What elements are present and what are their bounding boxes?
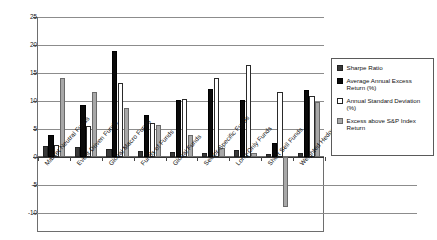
- x-axis-tick: [70, 157, 71, 161]
- bar: [240, 100, 245, 157]
- y-axis-tick-label: 5: [3, 126, 37, 132]
- bar: [86, 126, 91, 157]
- bar: [138, 151, 143, 157]
- legend-swatch-annual-standard-deviation: [337, 98, 343, 104]
- x-axis-tick: [229, 157, 230, 161]
- bar-group: [166, 17, 198, 157]
- bar: [277, 92, 282, 157]
- bar: [182, 99, 187, 157]
- bar: [144, 115, 149, 157]
- bar: [283, 157, 288, 207]
- legend-label: Annual Standard Deviation (%): [347, 97, 430, 112]
- bar: [202, 153, 207, 157]
- chart-legend: Sharpe Ratio Average Annual Excess Retur…: [331, 58, 434, 156]
- y-axis-tick: [33, 185, 37, 186]
- x-axis-tick: [261, 157, 262, 161]
- legend-item: Excess above S&P Index Return: [337, 117, 429, 132]
- bar: [208, 89, 213, 157]
- bar: [266, 154, 271, 157]
- y-axis-tick-label: 20: [3, 42, 37, 48]
- legend-label: Sharpe Ratio: [347, 64, 430, 71]
- bar: [150, 123, 155, 157]
- bar: [251, 153, 256, 157]
- x-axis-line: [37, 157, 324, 158]
- bar: [246, 65, 251, 157]
- bar: [304, 90, 309, 157]
- bar: [48, 135, 53, 157]
- bar-group: [134, 17, 166, 157]
- x-axis-tick: [293, 157, 294, 161]
- bar: [106, 149, 111, 157]
- bar-group: [261, 17, 293, 157]
- bar: [309, 96, 314, 157]
- x-axis-tick: [38, 157, 39, 161]
- y-axis-tick-label: -5: [3, 182, 37, 188]
- legend-swatch-excess-above-sp-index-return: [337, 118, 343, 124]
- bar: [176, 100, 181, 157]
- bar: [43, 146, 48, 157]
- bar: [124, 108, 129, 157]
- bar-group: [102, 17, 134, 157]
- bar: [219, 148, 224, 157]
- bar-group: [293, 17, 325, 157]
- bar: [112, 51, 117, 157]
- bar: [80, 105, 85, 157]
- x-axis-tick: [166, 157, 167, 161]
- x-axis-tick: [197, 157, 198, 161]
- bar: [156, 125, 161, 157]
- y-axis-tick-label: 15: [3, 70, 37, 76]
- bar: [214, 78, 219, 157]
- bar: [60, 78, 65, 157]
- bar-group: [229, 17, 261, 157]
- legend-item: Average Annual Excess Return (%): [337, 77, 429, 92]
- x-axis-tick: [102, 157, 103, 161]
- gridline: [37, 213, 417, 214]
- x-axis-tick: [134, 157, 135, 161]
- legend-item: Annual Standard Deviation (%): [337, 97, 429, 112]
- bar-group: [38, 17, 70, 157]
- bar-chart: 2520151050-5-10 Market Neutral FundsEven…: [0, 0, 437, 240]
- legend-label: Excess above S&P Index Return: [347, 117, 430, 132]
- y-axis-tick: [33, 213, 37, 214]
- bar-group: [70, 17, 102, 157]
- bar-group: [197, 17, 229, 157]
- bar: [234, 150, 239, 157]
- bar: [315, 102, 320, 157]
- bar: [188, 135, 193, 157]
- bar: [298, 153, 303, 157]
- bar: [170, 152, 175, 157]
- legend-swatch-sharpe-ratio: [337, 65, 343, 71]
- y-axis-tick-label: 0: [3, 154, 37, 160]
- legend-label: Average Annual Excess Return (%): [347, 77, 430, 92]
- y-axis-tick-label: 10: [3, 98, 37, 104]
- legend-item: Sharpe Ratio: [337, 64, 429, 71]
- bar: [54, 145, 59, 157]
- bar: [75, 147, 80, 157]
- bar: [272, 143, 277, 157]
- y-axis-tick-label: -10: [3, 210, 37, 216]
- y-axis-tick-label: 25: [3, 14, 37, 20]
- bar: [92, 92, 97, 157]
- bar: [118, 83, 123, 157]
- gridline: [37, 185, 417, 186]
- legend-swatch-average-annual-excess-return: [337, 78, 343, 84]
- lower-label-box: [37, 157, 324, 232]
- bars-layer: [38, 17, 324, 157]
- x-axis-tick: [325, 157, 326, 161]
